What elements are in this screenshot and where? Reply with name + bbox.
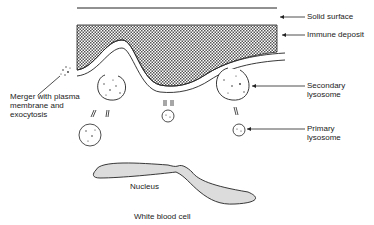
primary-lysosome-right <box>233 124 245 136</box>
secondary-lysosome-right <box>216 68 249 100</box>
primary-lysosome-left <box>79 124 101 146</box>
label-solid-surface: Solid surface <box>307 12 353 21</box>
label-primary-lysosome: Primary lysosome <box>307 124 341 142</box>
primary-lysosome-center <box>162 110 174 122</box>
secondary-lysosome-left <box>98 75 126 100</box>
label-white-blood-cell: White blood cell <box>134 212 190 221</box>
nucleus-shape <box>93 163 255 204</box>
label-immune-deposit: Immune deposit <box>307 30 364 39</box>
label-merger: Merger with plasma membrane and exocytos… <box>10 92 80 119</box>
exocytosis-dots-icon <box>60 66 70 75</box>
label-secondary-lysosome: Secondary lysosome <box>307 81 345 99</box>
label-nucleus: Nucleus <box>130 182 159 191</box>
